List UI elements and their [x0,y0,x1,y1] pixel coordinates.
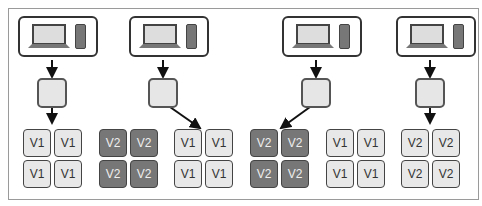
v1-instance: V1 [174,160,202,188]
v1-instance: V1 [54,129,82,157]
v2-instance: V2 [250,160,278,188]
phone-icon [339,24,350,49]
phone-icon [453,24,464,49]
phone-icon [186,24,197,49]
v2-instance: V2 [432,129,460,157]
laptop-icon [292,24,334,50]
client-2 [129,16,209,57]
v1-instance: V1 [357,129,385,157]
v1-instance: V1 [54,160,82,188]
phone-icon [75,24,86,49]
v2-instance: V2 [281,129,309,157]
v1-instance: V1 [174,129,202,157]
v1-instance: V1 [23,160,51,188]
v2-instance: V2 [250,129,278,157]
client-4 [396,16,476,57]
laptop-icon [139,24,181,50]
v1-instance: V1 [205,129,233,157]
v2-instance: V2 [99,160,127,188]
v2-instance: V2 [432,160,460,188]
v2-instance: V2 [130,160,158,188]
v1-instance: V1 [23,129,51,157]
load-balancer-4 [415,78,445,108]
load-balancer-2 [148,78,178,108]
v2-instance: V2 [401,160,429,188]
laptop-icon [406,24,448,50]
v2-instance: V2 [130,129,158,157]
laptop-icon [28,24,70,50]
client-1 [18,16,98,57]
v2-instance: V2 [401,129,429,157]
v2-instance: V2 [281,160,309,188]
load-balancer-3 [301,78,331,108]
v1-instance: V1 [205,160,233,188]
v1-instance: V1 [326,160,354,188]
v1-instance: V1 [326,129,354,157]
v1-instance: V1 [357,160,385,188]
v2-instance: V2 [99,129,127,157]
client-3 [282,16,362,57]
load-balancer-1 [37,78,67,108]
